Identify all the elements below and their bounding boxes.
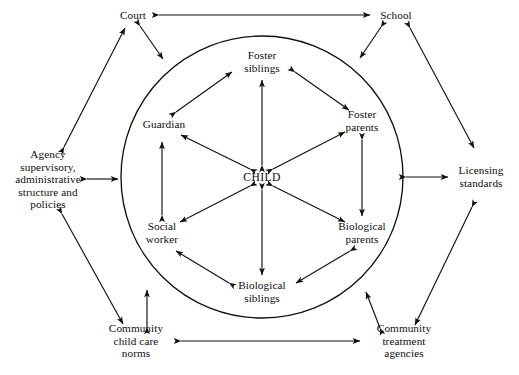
node-foster-siblings: Foster siblings [244, 49, 280, 74]
node-court: Court [120, 9, 146, 22]
node-agency-policies: Agency supervisory, administrative struc… [15, 148, 80, 211]
link-court-boundary [140, 26, 163, 59]
link-child-social-worker [180, 186, 250, 222]
node-child: CHILD [243, 171, 280, 184]
link-licensing-standards-community-treatment [415, 207, 472, 325]
link-agency-policies-community-child-care [62, 214, 123, 324]
link-school-licensing-standards [410, 28, 474, 148]
link-biological-parents-biological-siblings [296, 251, 350, 283]
node-biological-siblings: Biological siblings [238, 279, 286, 304]
link-foster-siblings-foster-parents [295, 72, 349, 110]
link-guardian-foster-siblings [176, 72, 232, 112]
link-child-guardian [181, 135, 250, 169]
link-agency-policies-court [64, 28, 125, 147]
link-child-biological-parents [273, 186, 345, 222]
link-biological-siblings-social-worker [176, 251, 229, 283]
link-school-boundary [360, 27, 381, 58]
node-school: School [380, 9, 412, 22]
node-community-treatment: Community treatment agencies [377, 322, 431, 360]
node-foster-parents: Foster parents [345, 108, 378, 133]
node-licensing-standards: Licensing standards [458, 164, 503, 189]
node-guardian: Guardian [143, 118, 185, 131]
node-community-child-care: Community child care norms [109, 322, 163, 360]
diagram-canvas: CHILD Foster siblings Foster parents Bio… [0, 0, 519, 375]
node-social-worker: Social worker [146, 220, 178, 245]
link-child-foster-parents [273, 132, 345, 169]
node-biological-parents: Biological parents [338, 220, 386, 245]
